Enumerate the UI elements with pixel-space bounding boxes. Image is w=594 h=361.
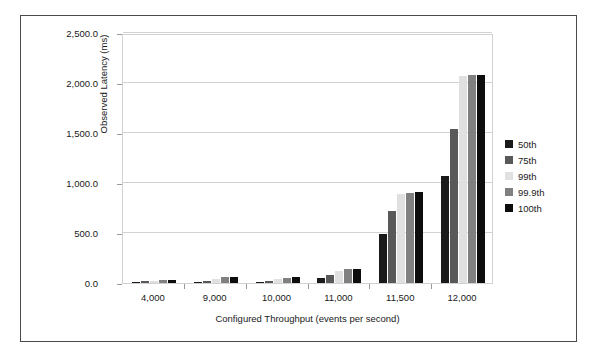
bar [141,281,149,283]
bar [468,75,476,284]
bar [292,277,300,283]
gridline [123,32,492,33]
bar [441,176,449,283]
bar [326,275,334,283]
legend-swatch [505,140,513,148]
bar-group [432,35,494,283]
bar [150,281,158,284]
x-tick-mark [308,284,309,289]
y-tick-mark [117,284,122,285]
legend-swatch [505,156,513,164]
bar [132,282,140,284]
bar-group [370,35,432,283]
bar [221,277,229,283]
y-tick-label: 0.0 [28,278,98,289]
legend-item: 100th [505,200,571,216]
bar [168,280,176,284]
legend-item: 99th [505,168,571,184]
bar-group [309,35,371,283]
bar [274,279,282,284]
x-tick-label: 12,000 [422,292,502,303]
legend-item: 50th [505,136,571,152]
bar-group [123,35,185,283]
bar-group [247,35,309,283]
legend-label: 100th [518,203,542,214]
plot-area [122,34,493,284]
legend-label: 75th [518,155,537,166]
y-tick-label: 500.0 [28,228,98,239]
legend-swatch [505,172,513,180]
bar [265,281,273,284]
bar [415,192,423,283]
y-tick-label: 2,500.0 [28,28,98,39]
legend-label: 99.9th [518,187,544,198]
bar [194,282,202,284]
chart-legend: 50th75th99th99.9th100th [505,136,571,216]
bar [256,282,264,284]
y-tick-label: 2,000.0 [28,78,98,89]
bar [344,269,352,283]
bar [283,278,291,284]
bar [353,269,361,284]
x-tick-mark [246,284,247,289]
bar [159,280,167,283]
bar [335,271,343,283]
x-axis-title: Configured Throughput (events per second… [122,313,493,324]
x-tick-mark [431,284,432,289]
legend-swatch [505,188,513,196]
x-tick-mark [369,284,370,289]
legend-label: 99th [518,171,537,182]
legend-item: 99.9th [505,184,571,200]
bar [317,278,325,284]
bar-group [185,35,247,283]
bars-layer [123,35,492,283]
legend-item: 75th [505,152,571,168]
bar [379,234,387,283]
bar [230,277,238,284]
bar [477,75,485,284]
y-tick-label: 1,500.0 [28,128,98,139]
bar [212,279,220,284]
bar [450,129,458,283]
y-tick-label: 1,000.0 [28,178,98,189]
legend-swatch [505,204,513,212]
bar [397,194,405,283]
legend-label: 50th [518,139,537,150]
bar [388,211,396,283]
bar [459,76,467,284]
figure-frame: Observed Latency (ms) 0.0500.01,000.01,5… [20,15,577,342]
y-axis-title: Observed Latency (ms) [98,4,114,164]
bar [406,193,414,284]
bar [203,281,211,284]
x-tick-mark [184,284,185,289]
